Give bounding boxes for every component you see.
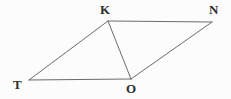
vertex-label-n: N xyxy=(209,3,218,16)
figure-canvas xyxy=(0,0,231,99)
segment-OT xyxy=(29,79,131,80)
segment-KO xyxy=(108,21,131,79)
segment-NO xyxy=(131,22,212,79)
segment-TK xyxy=(29,21,108,80)
vertex-label-k: K xyxy=(100,3,110,16)
vertex-label-t: T xyxy=(13,78,22,91)
geometry-figure: K N T O xyxy=(0,0,231,99)
vertex-label-o: O xyxy=(126,82,136,95)
segment-KN xyxy=(108,21,212,22)
